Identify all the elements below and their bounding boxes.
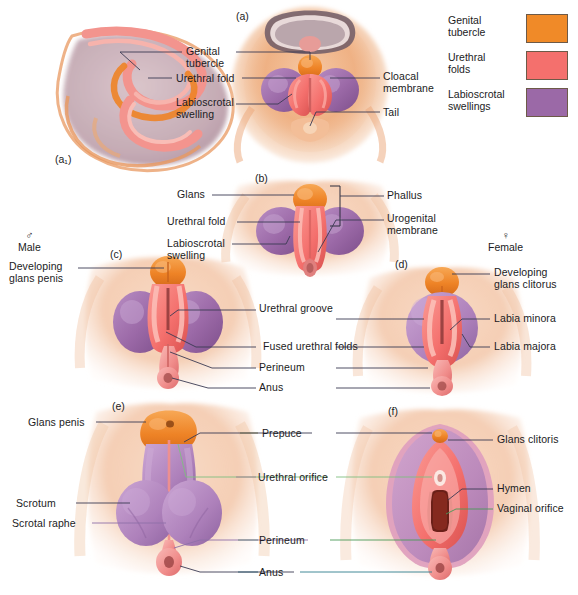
- label-urethral-fold-a: Urethral fold: [176, 73, 235, 85]
- sex-header-label-male: Male: [18, 241, 41, 253]
- panel-e-illustration: [80, 403, 265, 576]
- panel-id-b: (b): [255, 172, 268, 184]
- label-labia-majora: Labia majora: [494, 341, 556, 353]
- figure-canvas: Genital tubercle Urethral folds Labioscr…: [0, 0, 578, 595]
- legend-item-labioscrotal-swellings: Labioscrotal swellings: [448, 88, 576, 117]
- label-urogenital-membrane: Urogenital membrane: [387, 213, 438, 237]
- label-tail: Tail: [383, 107, 399, 119]
- legend: Genital tubercle Urethral folds Labioscr…: [448, 14, 576, 125]
- label-anus-ef: Anus: [259, 567, 283, 579]
- panel-id-a: (a): [236, 10, 249, 22]
- label-prepuce: Prepuce: [262, 428, 302, 440]
- legend-swatch-labioscrotal-swellings: [526, 88, 568, 117]
- panel-a-illustration: [232, 7, 388, 163]
- label-anus-cd: Anus: [259, 382, 283, 394]
- legend-label-labioscrotal-swellings: Labioscrotal swellings: [448, 88, 522, 112]
- label-scrotal-raphe: Scrotal raphe: [12, 518, 76, 530]
- male-symbol-icon: ♂: [18, 229, 41, 241]
- label-urethral-groove: Urethral groove: [259, 303, 333, 315]
- label-developing-glans-penis: Developing glans penis: [9, 261, 63, 285]
- legend-item-urethral-folds: Urethral folds: [448, 51, 576, 80]
- legend-label-urethral-folds: Urethral folds: [448, 51, 522, 75]
- panel-id-f: (f): [388, 405, 398, 417]
- label-vaginal-orifice: Vaginal orifice: [497, 503, 564, 515]
- label-perineum-ef: Perineum: [259, 535, 305, 547]
- label-labioscrotal-swelling-b: Labioscrotal swelling: [167, 238, 225, 262]
- panel-id-d: (d): [395, 258, 408, 270]
- legend-label-genital-tubercle: Genital tubercle: [448, 14, 522, 38]
- label-glans-penis: Glans penis: [28, 417, 85, 429]
- legend-item-genital-tubercle: Genital tubercle: [448, 14, 576, 43]
- label-perineum-cd: Perineum: [259, 362, 305, 374]
- label-labioscrotal-swelling-a: Labioscrotal swelling: [176, 97, 234, 121]
- label-urethral-fold-b: Urethral fold: [167, 216, 226, 228]
- panel-id-c: (c): [110, 248, 122, 260]
- label-genital-tubercle: Genital tubercle: [186, 46, 224, 70]
- label-glans-clitoris: Glans clitoris: [497, 434, 559, 446]
- label-labia-minora: Labia minora: [494, 313, 556, 325]
- label-hymen: Hymen: [497, 483, 531, 495]
- sex-header-male: ♂Male: [18, 229, 41, 253]
- sex-header-female: ♀Female: [488, 229, 523, 253]
- label-cloacal-membrane: Cloacal membrane: [383, 71, 434, 95]
- panel-id-a1: (a₁): [55, 153, 71, 165]
- label-fused-urethral-folds: Fused urethral folds: [263, 341, 358, 353]
- label-urethral-orifice: Urethral orifice: [258, 472, 328, 484]
- label-phallus: Phallus: [387, 190, 422, 202]
- panel-id-e: (e): [112, 400, 125, 412]
- legend-swatch-urethral-folds: [526, 51, 568, 80]
- label-scrotum: Scrotum: [16, 498, 56, 510]
- label-glans-b: Glans: [177, 189, 205, 201]
- legend-swatch-genital-tubercle: [526, 14, 568, 43]
- sex-header-label-female: Female: [488, 241, 523, 253]
- female-symbol-icon: ♀: [488, 229, 523, 241]
- panel-c-illustration: [80, 256, 257, 389]
- label-developing-glans-clitorus: Developing glans clitorus: [494, 267, 557, 291]
